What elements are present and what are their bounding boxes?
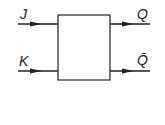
q-arrow-icon [122,22,134,27]
j-label: J [20,7,27,21]
flip-flop-box [58,15,110,80]
j-arrow-icon [30,22,42,27]
k-arrow-icon [30,69,42,74]
q-label: Q [137,7,148,21]
qbar-label: Q̄ [137,53,148,67]
k-label: K [19,54,28,68]
qbar-arrow-icon [122,69,134,74]
